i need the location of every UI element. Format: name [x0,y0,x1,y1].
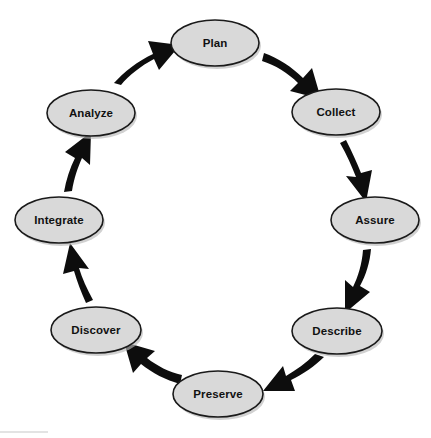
node-discover-label: Discover [71,324,121,336]
node-plan[interactable]: Plan [171,20,261,69]
arrow-assure-to-describe [345,249,371,313]
footer-divider-rule [0,431,48,433]
node-describe[interactable]: Describe [292,308,384,357]
node-integrate[interactable]: Integrate [15,197,105,246]
node-collect[interactable]: Collect [292,89,382,138]
node-analyze[interactable]: Analyze [47,90,137,139]
arrow-collect-to-assure [340,140,372,202]
node-discover[interactable]: Discover [51,307,143,356]
node-assure-label: Assure [355,214,395,226]
arrow-analyze-to-plan [114,41,180,85]
node-plan-label: Plan [203,37,228,49]
node-collect-label: Collect [316,106,355,118]
arrow-describe-to-preserve [263,354,324,391]
arrow-discover-to-integrate [63,243,93,303]
node-preserve[interactable]: Preserve [173,371,265,420]
arrow-preserve-to-discover [124,342,182,384]
cycle-diagram-svg: Plan Collect Assure Describe Preserve [0,0,431,438]
arrow-integrate-to-analyze [64,132,91,192]
data-life-cycle-diagram: Plan Collect Assure Describe Preserve [0,0,431,438]
node-preserve-label: Preserve [193,388,242,400]
node-analyze-label: Analyze [69,107,113,119]
node-describe-label: Describe [312,325,361,337]
node-assure[interactable]: Assure [331,197,421,246]
node-integrate-label: Integrate [34,214,83,226]
